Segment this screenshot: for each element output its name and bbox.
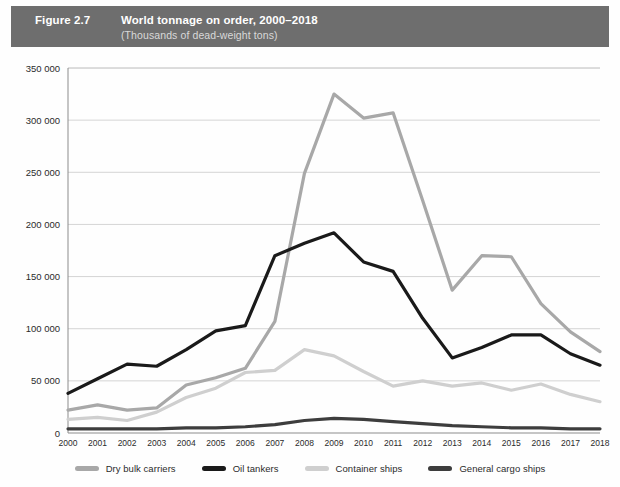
x-tick-label: 2006 — [236, 438, 255, 447]
line-chart-svg: 050 000100 000150 000200 000250 000300 0… — [0, 52, 620, 447]
x-tick-label: 2012 — [413, 438, 432, 447]
x-tick-label: 2008 — [295, 438, 314, 447]
y-tick-label: 50 000 — [31, 375, 60, 386]
legend-item[interactable]: Dry bulk carriers — [75, 463, 176, 474]
y-axis-tick-labels: 050 000100 000150 000200 000250 000300 0… — [26, 63, 60, 439]
y-tick-label: 100 000 — [26, 323, 60, 334]
figure-header-bar: Figure 2.7 World tonnage on order, 2000–… — [11, 6, 609, 47]
x-tick-label: 2005 — [206, 438, 225, 447]
x-tick-label: 2016 — [531, 438, 550, 447]
figure-number: Figure 2.7 — [35, 14, 90, 26]
x-tick-label: 2000 — [59, 438, 78, 447]
x-tick-label: 2009 — [325, 438, 344, 447]
legend-item-label: General cargo ships — [459, 463, 545, 474]
legend-swatch-icon — [75, 466, 99, 471]
y-tick-label: 300 000 — [26, 115, 60, 126]
series-line-oil-tankers — [68, 233, 600, 394]
x-tick-label: 2004 — [177, 438, 196, 447]
x-tick-label: 2003 — [147, 438, 166, 447]
x-tick-label: 2001 — [88, 438, 107, 447]
figure-title: World tonnage on order, 2000–2018 — [121, 13, 318, 27]
x-tick-label: 2002 — [118, 438, 137, 447]
chart-legend: Dry bulk carriersOil tankersContainer sh… — [0, 455, 620, 481]
series-line-dry-bulk-carriers — [68, 94, 600, 410]
x-tick-label: 2013 — [443, 438, 462, 447]
legend-item-label: Dry bulk carriers — [106, 463, 176, 474]
legend-item[interactable]: Container ships — [305, 463, 403, 474]
data-series-group — [68, 94, 600, 429]
legend-item-label: Oil tankers — [233, 463, 279, 474]
x-tick-label: 2017 — [561, 438, 580, 447]
legend-item[interactable]: General cargo ships — [428, 463, 545, 474]
axis-lines — [68, 68, 600, 433]
x-tick-label: 2010 — [354, 438, 373, 447]
chart-plot-area: 050 000100 000150 000200 000250 000300 0… — [0, 52, 620, 447]
figure-container: Figure 2.7 World tonnage on order, 2000–… — [0, 0, 620, 487]
figure-subtitle: (Thousands of dead-weight tons) — [121, 28, 318, 42]
y-tick-label: 250 000 — [26, 167, 60, 178]
y-tick-label: 200 000 — [26, 219, 60, 230]
figure-title-block: World tonnage on order, 2000–2018 (Thous… — [121, 13, 318, 42]
x-tick-label: 2018 — [591, 438, 610, 447]
x-axis-tick-labels: 2000200120022003200420052006200720082009… — [59, 438, 610, 447]
x-tick-label: 2007 — [265, 438, 284, 447]
legend-item-label: Container ships — [336, 463, 403, 474]
legend-swatch-icon — [305, 466, 329, 471]
legend-swatch-icon — [202, 466, 226, 471]
y-tick-label: 350 000 — [26, 63, 60, 74]
x-tick-label: 2011 — [384, 438, 403, 447]
x-tick-label: 2014 — [472, 438, 491, 447]
legend-item[interactable]: Oil tankers — [202, 463, 279, 474]
x-tick-label: 2015 — [502, 438, 521, 447]
series-line-general-cargo-ships — [68, 418, 600, 428]
legend-swatch-icon — [428, 466, 452, 471]
y-tick-label: 0 — [55, 428, 60, 439]
y-tick-label: 150 000 — [26, 271, 60, 282]
